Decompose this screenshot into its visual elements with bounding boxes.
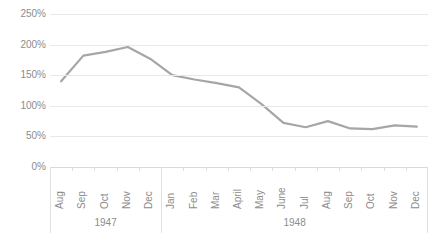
x-axis-tick-label: Aug: [322, 191, 332, 209]
x-axis-tick: June: [272, 167, 294, 211]
x-axis-tick-mark: [295, 167, 296, 171]
x-axis-tick-label: April: [233, 189, 243, 209]
x-axis-tick-label: Oct: [366, 193, 376, 209]
y-axis-tick-label: 150%: [2, 70, 46, 80]
x-axis-tick-mark: [139, 167, 140, 171]
x-axis-tick-label: Sep: [77, 191, 87, 209]
x-axis-tick-label: Aug: [55, 191, 65, 209]
plot-area: [50, 14, 428, 167]
gridline: [50, 14, 428, 15]
x-axis-tick: Feb: [183, 167, 205, 211]
x-axis-tick-mark: [361, 167, 362, 171]
x-axis-tick: Mar: [206, 167, 228, 211]
x-axis-group-divider: [427, 211, 428, 233]
x-axis-tick-label: Sep: [344, 191, 354, 209]
x-axis-tick-label: Oct: [100, 193, 110, 209]
y-axis: 0%50%100%150%200%250%: [0, 14, 46, 167]
x-axis-tick-label: Mar: [211, 192, 221, 209]
x-axis-group-separator: [427, 167, 428, 211]
line-series: [50, 14, 428, 167]
x-axis-tick-label: Feb: [189, 192, 199, 209]
x-axis-tick: Sep: [339, 167, 361, 211]
x-axis-tick: Nov: [117, 167, 139, 211]
x-axis-tick-mark: [406, 167, 407, 171]
x-axis: AugSepOctNovDecJanFebMarAprilMayJuneJulA…: [50, 167, 428, 233]
x-axis-tick: April: [228, 167, 250, 211]
x-axis-tick-mark: [272, 167, 273, 171]
x-axis-tick-mark: [317, 167, 318, 171]
x-axis-tick-mark: [250, 167, 251, 171]
gridline: [50, 136, 428, 137]
x-axis-tick: Dec: [139, 167, 161, 211]
x-axis-tick: Jul: [295, 167, 317, 211]
y-axis-tick-label: 50%: [2, 131, 46, 141]
x-axis-tick-mark: [384, 167, 385, 171]
x-axis-tick: Aug: [50, 167, 72, 211]
x-axis-tick: Sep: [72, 167, 94, 211]
x-axis-tick-mark: [94, 167, 95, 171]
x-axis-tick: Oct: [94, 167, 116, 211]
y-axis-tick-label: 250%: [2, 9, 46, 19]
x-axis-tick-mark: [339, 167, 340, 171]
x-axis-tick-label: Nov: [389, 191, 399, 209]
y-axis-tick-label: 100%: [2, 101, 46, 111]
x-axis-tick: Jan: [161, 167, 183, 211]
x-axis-tick-label: May: [255, 190, 265, 209]
gridline: [50, 106, 428, 107]
x-axis-tick-mark: [183, 167, 184, 171]
x-axis-tick-mark: [72, 167, 73, 171]
x-axis-tick-mark: [228, 167, 229, 171]
x-axis-tick-label: Dec: [144, 191, 154, 209]
x-axis-group-divider: [50, 211, 51, 233]
x-axis-month-labels: AugSepOctNovDecJanFebMarAprilMayJuneJulA…: [50, 167, 428, 211]
x-axis-group-separator: [161, 167, 162, 211]
series-line: [61, 47, 417, 129]
x-axis-tick-label: Nov: [122, 191, 132, 209]
x-axis-tick-label: Jul: [300, 196, 310, 209]
y-axis-tick-label: 0%: [2, 162, 46, 172]
chart-container: 0%50%100%150%200%250% AugSepOctNovDecJan…: [0, 0, 440, 245]
x-axis-tick: Aug: [317, 167, 339, 211]
y-axis-tick-label: 200%: [2, 40, 46, 50]
x-axis-tick-label: Jan: [166, 193, 176, 209]
x-axis-group-label: 1947: [50, 211, 161, 233]
x-axis-tick-mark: [206, 167, 207, 171]
x-axis-year-labels: 19471948: [50, 211, 428, 233]
x-axis-tick: May: [250, 167, 272, 211]
x-axis-tick-mark: [117, 167, 118, 171]
x-axis-tick: Nov: [384, 167, 406, 211]
x-axis-group-label: 1948: [161, 211, 428, 233]
gridline: [50, 45, 428, 46]
x-axis-tick: Dec: [406, 167, 428, 211]
x-axis-tick: Oct: [361, 167, 383, 211]
x-axis-tick-label: June: [277, 187, 287, 209]
x-axis-group-divider: [161, 211, 162, 233]
gridline: [50, 75, 428, 76]
x-axis-group-separator: [50, 167, 51, 211]
x-axis-tick-label: Dec: [411, 191, 421, 209]
